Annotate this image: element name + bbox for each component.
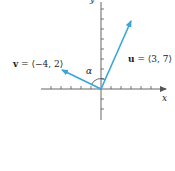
- vector-v-value: = ⟨−4, 2⟩: [18, 59, 63, 69]
- vector-u-arrow: [101, 21, 131, 89]
- vector-diagram: x y α u = ⟨3, 7⟩ v = ⟨−4, 2⟩: [0, 0, 175, 171]
- x-axis-label: x: [162, 93, 167, 103]
- angle-label: α: [86, 66, 92, 76]
- y-axis: y: [89, 0, 104, 120]
- vector-v-arrow: [62, 70, 101, 89]
- vector-v-label: v = ⟨−4, 2⟩: [12, 59, 63, 69]
- vector-u-value: = ⟨3, 7⟩: [135, 54, 172, 64]
- vector-u-label: u = ⟨3, 7⟩: [128, 54, 172, 64]
- x-axis: x: [41, 86, 167, 103]
- y-axis-label: y: [89, 0, 95, 4]
